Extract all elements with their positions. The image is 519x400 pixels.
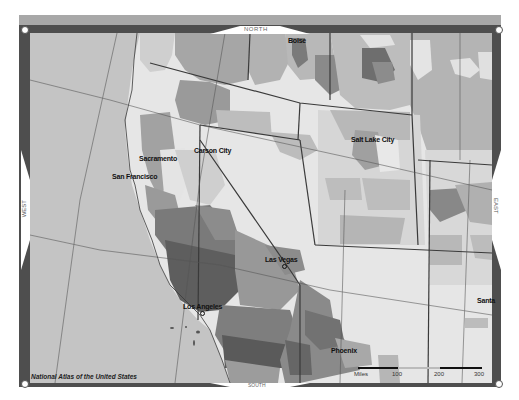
city-label-los-angeles[interactable]: Los Angeles bbox=[183, 303, 222, 310]
city-label-san-francisco[interactable]: San Francisco bbox=[112, 173, 157, 180]
city-label-sacramento[interactable]: Sacramento bbox=[139, 155, 177, 162]
frame-top-bar bbox=[19, 15, 501, 25]
city-marker-los-angeles bbox=[200, 311, 205, 316]
corner-handle-bottom-left[interactable] bbox=[21, 380, 29, 388]
east-label: EAST bbox=[493, 198, 499, 214]
corner-handle-top-right[interactable] bbox=[495, 26, 503, 34]
city-label-phoenix[interactable]: Phoenix bbox=[331, 347, 357, 354]
south-label: SOUTH bbox=[248, 382, 266, 388]
city-label-santa-fe[interactable]: Santa bbox=[477, 297, 495, 304]
atlas-credit: National Atlas of the United States bbox=[31, 373, 137, 380]
scale-segment-2 bbox=[398, 367, 440, 369]
west-label: WEST bbox=[21, 200, 27, 217]
city-label-las-vegas[interactable]: Las Vegas bbox=[265, 256, 297, 263]
map-canvas[interactable] bbox=[30, 33, 492, 383]
scale-tick-100: 100 bbox=[392, 371, 402, 377]
corner-handle-bottom-right[interactable] bbox=[495, 380, 503, 388]
choropleth-map bbox=[30, 33, 492, 383]
scale-bar: Miles 100 200 300 bbox=[358, 367, 488, 381]
city-label-salt-lake-city[interactable]: Salt Lake City bbox=[351, 136, 394, 143]
scale-unit-label: Miles bbox=[354, 371, 368, 377]
city-label-boise[interactable]: Boise bbox=[288, 37, 306, 44]
scale-segment-1 bbox=[358, 367, 398, 369]
corner-handle-top-left[interactable] bbox=[21, 26, 29, 34]
scale-tick-200: 200 bbox=[434, 371, 444, 377]
scale-tick-300: 300 bbox=[474, 371, 484, 377]
city-marker-las-vegas bbox=[282, 264, 287, 269]
scale-segment-3 bbox=[440, 367, 482, 369]
city-label-carson-city[interactable]: Carson City bbox=[194, 147, 231, 154]
north-label: NORTH bbox=[244, 26, 268, 32]
